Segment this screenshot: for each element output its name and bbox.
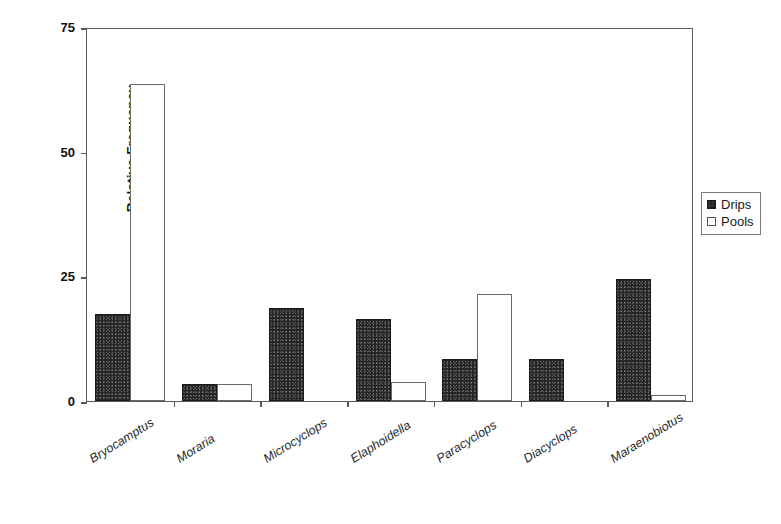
bar-drips [269, 308, 304, 401]
x-tick-mark [434, 401, 436, 407]
x-tick-mark [607, 401, 609, 407]
bar-drips [442, 359, 477, 401]
x-axis-category-label: Bryocamptus [87, 415, 156, 466]
legend-label: Drips [721, 198, 751, 211]
bar-pools [391, 382, 426, 401]
bar-pools [130, 84, 165, 401]
y-tick-mark [81, 28, 87, 30]
x-tick-mark [521, 401, 523, 407]
legend-label: Pools [721, 215, 754, 228]
bar-drips [529, 359, 564, 401]
y-tick-label: 25 [61, 269, 75, 284]
plot-area: Relative Frequency 0255075 [86, 28, 693, 402]
x-tick-mark [260, 401, 262, 407]
x-tick-mark [347, 401, 349, 407]
x-axis-category-label: Microcyclops [261, 416, 330, 466]
chart-legend: Drips Pools [701, 192, 761, 235]
filled-square-icon [707, 200, 716, 209]
x-axis-category-label: Moraria [174, 432, 217, 466]
y-tick-label: 75 [61, 20, 75, 35]
y-tick-mark [81, 153, 87, 155]
bar-pools [651, 395, 686, 401]
bar-drips [356, 319, 391, 401]
y-tick-label: 0 [68, 394, 75, 409]
hollow-square-icon [707, 217, 716, 226]
bar-chart-figure: Relative Frequency 0255075 BryocamptusMo… [0, 0, 781, 524]
x-axis-category-label: Diacyclops [521, 422, 580, 466]
y-tick-mark [81, 402, 87, 404]
legend-item-pools[interactable]: Pools [707, 213, 754, 230]
bar-pools [217, 384, 252, 401]
bar-drips [616, 279, 651, 401]
bar-drips [95, 314, 130, 401]
y-tick-label: 50 [61, 145, 75, 160]
x-axis-category-label: Elaphoidella [348, 418, 413, 466]
x-axis-category-label: Paracyclops [434, 418, 499, 466]
y-tick-mark [81, 277, 87, 279]
x-tick-mark [174, 401, 176, 407]
bar-drips [182, 384, 217, 401]
bar-pools [477, 294, 512, 401]
legend-item-drips[interactable]: Drips [707, 196, 754, 213]
x-axis-category-label: Maraenobiotus [608, 410, 686, 466]
